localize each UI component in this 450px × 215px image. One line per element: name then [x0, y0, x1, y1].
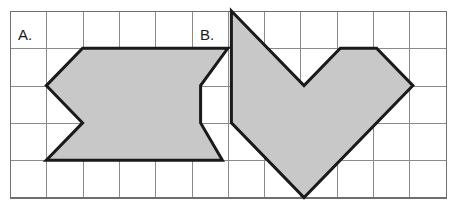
- shape-a-label: A.: [18, 26, 32, 43]
- shape-a: [46, 48, 228, 160]
- shapes-figure: A. B.: [0, 0, 450, 215]
- worksheet-canvas: A. B.: [0, 0, 450, 215]
- shape-b-label: B.: [200, 26, 214, 43]
